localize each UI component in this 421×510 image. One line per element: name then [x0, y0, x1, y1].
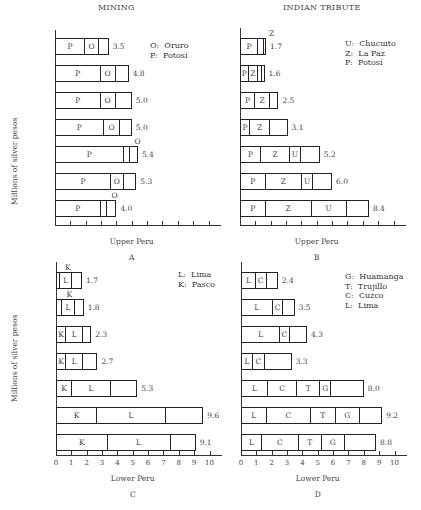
legend: G: Huamanga T: Trujillo C: Cuzco L: Lima	[345, 272, 403, 310]
x-tick-label: 1	[254, 459, 258, 467]
x-axis-tick	[272, 451, 273, 455]
x-tick-label: 10	[390, 459, 399, 467]
bar-segment: L	[242, 408, 267, 423]
bar-total-value: 2.4	[282, 276, 294, 285]
bar-segment: L	[242, 435, 262, 450]
bar-segment	[267, 273, 279, 288]
bar-segment: C	[268, 381, 297, 396]
x-axis-tick	[348, 451, 349, 455]
bar-segment	[265, 354, 293, 369]
x-axis-tick	[364, 451, 365, 455]
bar-segment: L	[242, 273, 256, 288]
bar-total-value: 9.2	[386, 411, 398, 420]
bar-segment: G	[320, 381, 331, 396]
bar-segment: G	[322, 435, 345, 450]
x-tick-label: 6	[331, 459, 335, 467]
bar-segment: C	[267, 408, 312, 423]
bar-total-value: 3.5	[299, 303, 311, 312]
bar-segment: L	[242, 300, 273, 315]
bar-segment: C	[262, 435, 299, 450]
bar-segment: C	[253, 354, 265, 369]
bar-segment	[345, 435, 377, 450]
bar-segment: T	[299, 435, 322, 450]
x-tick-label: 0	[239, 459, 243, 467]
x-axis-tick	[287, 451, 288, 455]
bar-segment	[331, 381, 365, 396]
x-tick-label: 4	[300, 459, 304, 467]
bar-segment: L	[242, 354, 253, 369]
bar-segment: T	[297, 381, 320, 396]
x-axis-tick	[302, 451, 303, 455]
bar-total-value: 8.0	[368, 384, 380, 393]
x-axis-tick	[241, 451, 242, 455]
x-axis-tick	[379, 451, 380, 455]
bar-segment: G	[336, 408, 361, 423]
stacked-bar: LC	[241, 353, 292, 370]
x-axis-tick	[395, 451, 396, 455]
bar-segment: C	[280, 327, 289, 342]
stacked-bar: LCTG	[241, 407, 382, 424]
x-axis-tick	[333, 451, 334, 455]
bar-total-value: 4.3	[311, 330, 323, 339]
x-tick-label: 9	[377, 459, 381, 467]
bar-segment: L	[242, 381, 268, 396]
stacked-bar: LC	[241, 272, 278, 289]
x-axis-label: Lower Peru	[296, 474, 340, 483]
stacked-bar: LC	[241, 299, 295, 316]
bar-total-value: 8.8	[380, 438, 392, 447]
stacked-bar: LCTG	[241, 434, 376, 451]
x-tick-label: 5	[316, 459, 320, 467]
bar-segment: C	[273, 300, 284, 315]
x-tick-label: 2	[269, 459, 273, 467]
x-tick-label: 8	[362, 459, 366, 467]
x-axis-line	[241, 455, 407, 456]
panel-letter: D	[315, 490, 321, 499]
panel-d-tribute-lower-peru: 012345678910Lower PeruDG: Huamanga T: Tr…	[0, 0, 421, 510]
bar-segment: L	[242, 327, 280, 342]
stacked-bar: LCTG	[241, 380, 364, 397]
bar-segment	[360, 408, 383, 423]
bar-segment: T	[311, 408, 336, 423]
bar-segment: C	[256, 273, 267, 288]
x-axis-tick	[318, 451, 319, 455]
x-tick-label: 3	[285, 459, 289, 467]
x-axis-tick	[256, 451, 257, 455]
x-tick-label: 7	[346, 459, 350, 467]
bar-segment	[290, 327, 308, 342]
bar-total-value: 3.3	[296, 357, 308, 366]
bar-segment	[283, 300, 295, 315]
stacked-bar: LC	[241, 326, 307, 343]
